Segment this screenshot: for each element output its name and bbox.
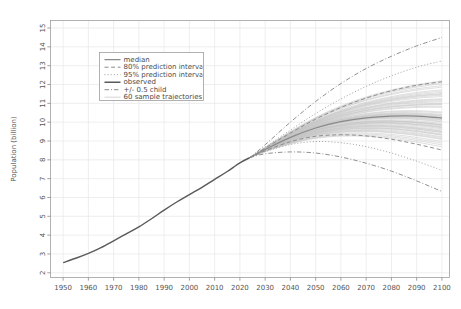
y-tick-label: 4 xyxy=(40,232,48,237)
y-tick-label: 7 xyxy=(40,176,48,180)
x-tick-label: 1960 xyxy=(79,284,97,292)
x-tick-label: 2050 xyxy=(307,284,325,292)
x-tick-label: 1950 xyxy=(54,284,72,292)
x-tick-label: 2060 xyxy=(332,284,350,292)
x-tick-label: 2010 xyxy=(206,284,224,292)
y-tick-label: 15 xyxy=(40,24,48,33)
population-projection-figure: 1950196019701980199020002010202020302040… xyxy=(0,0,461,309)
y-tick-label: 12 xyxy=(40,80,48,89)
x-tick-label: 1990 xyxy=(155,284,173,292)
x-tick-label: 2020 xyxy=(231,284,249,292)
x-tick-label: 2080 xyxy=(383,284,401,292)
x-tick-label: 2090 xyxy=(408,284,426,292)
y-tick-label: 10 xyxy=(40,118,48,127)
y-tick-label: 3 xyxy=(40,252,48,256)
y-tick-label: 5 xyxy=(40,214,48,218)
x-tick-label: 1980 xyxy=(130,284,148,292)
chart-canvas: 1950196019701980199020002010202020302040… xyxy=(0,0,461,309)
legend-group: median80% prediction interva95% predicti… xyxy=(100,53,204,102)
y-axis-title: Population (billion) xyxy=(10,116,18,182)
x-tick-label: 2070 xyxy=(357,284,375,292)
y-tick-label: 6 xyxy=(40,195,48,200)
y-tick-label: 13 xyxy=(40,61,48,70)
y-tick-label: 8 xyxy=(40,158,48,162)
x-tick-label: 2000 xyxy=(180,284,198,292)
y-tick-label: 14 xyxy=(40,42,48,51)
x-tick-label: 2030 xyxy=(256,284,274,292)
y-tick-label: 11 xyxy=(40,99,48,108)
y-tick-label: 2 xyxy=(40,271,48,275)
x-tick-label: 2100 xyxy=(433,284,451,292)
x-tick-label: 2040 xyxy=(281,284,299,292)
x-tick-label: 1970 xyxy=(105,284,123,292)
y-tick-label: 9 xyxy=(40,139,48,143)
